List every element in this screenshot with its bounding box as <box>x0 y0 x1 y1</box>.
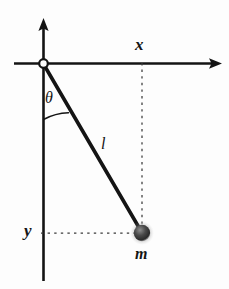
y-axis-label: y <box>24 222 32 239</box>
origin-pivot-icon <box>39 59 48 68</box>
diagram-canvas <box>0 0 229 289</box>
pendulum-bob-icon <box>134 225 150 241</box>
mass-label: m <box>135 246 147 262</box>
angle-label: θ <box>45 90 53 106</box>
length-label: l <box>101 136 105 152</box>
pendulum-diagram: x y θ l m <box>0 0 229 289</box>
x-axis-label: x <box>135 36 144 53</box>
angle-arc-icon <box>44 113 69 120</box>
pendulum-rod <box>44 64 142 231</box>
